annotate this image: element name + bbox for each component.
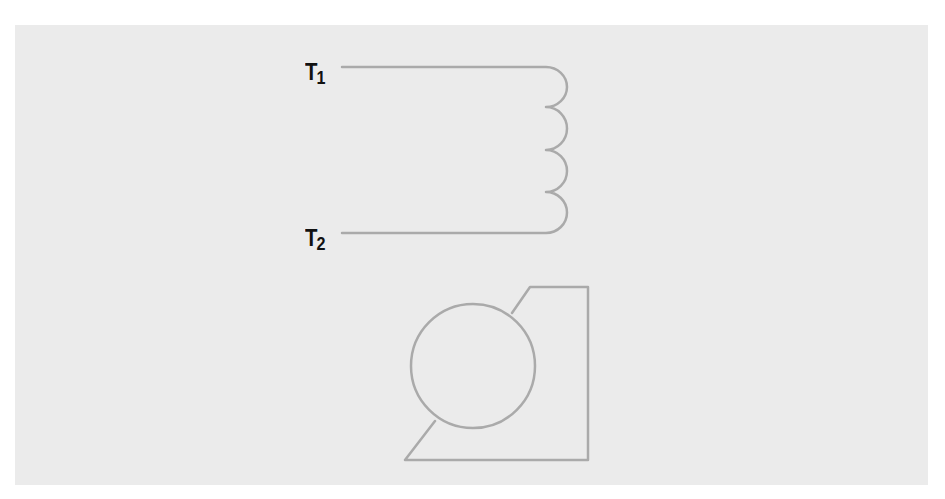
terminal-t1-letter: T — [305, 58, 317, 85]
motor-frame — [405, 287, 588, 460]
terminal-t1-subscript: 1 — [317, 67, 325, 88]
schematic-diagram — [0, 0, 945, 499]
coil-winding — [342, 67, 567, 233]
terminal-t2-subscript: 2 — [317, 233, 325, 254]
terminal-t2-label: T2 — [305, 226, 325, 250]
terminal-t1-label: T1 — [305, 60, 325, 84]
motor-circle — [411, 304, 535, 428]
terminal-t2-letter: T — [305, 224, 317, 251]
